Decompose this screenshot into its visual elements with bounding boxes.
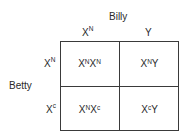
mother-label: Betty [9,80,32,91]
father-allele-1: XN [82,27,93,38]
cell-r1c1: XNXN [60,41,119,86]
cell-r2c1: XNXc [60,87,119,132]
cell-r2c2: XcY [120,87,179,132]
father-label: Billy [109,11,127,22]
father-allele-2: Y [145,27,152,38]
mother-allele-2: Xc [46,104,56,115]
mother-allele-1: XN [44,58,55,69]
cell-r1c2: XNY [120,41,179,86]
